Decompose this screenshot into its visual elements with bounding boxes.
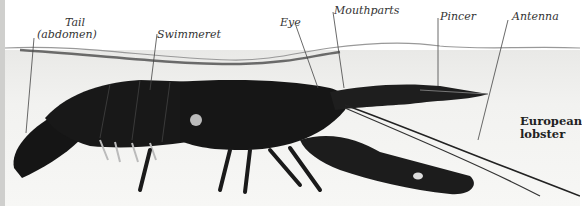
label-pincer: Pincer xyxy=(440,11,476,23)
label-antenna: Antenna xyxy=(512,11,559,23)
label-swimmeret: Swimmeret xyxy=(157,29,221,41)
label-mouthparts: Mouthparts xyxy=(334,5,399,17)
figure-title-line1: European xyxy=(520,115,582,127)
figure-title-line2: lobster xyxy=(520,128,565,140)
label-eye: Eye xyxy=(280,17,301,29)
label-tail-abdomen: (abdomen) xyxy=(37,29,97,41)
